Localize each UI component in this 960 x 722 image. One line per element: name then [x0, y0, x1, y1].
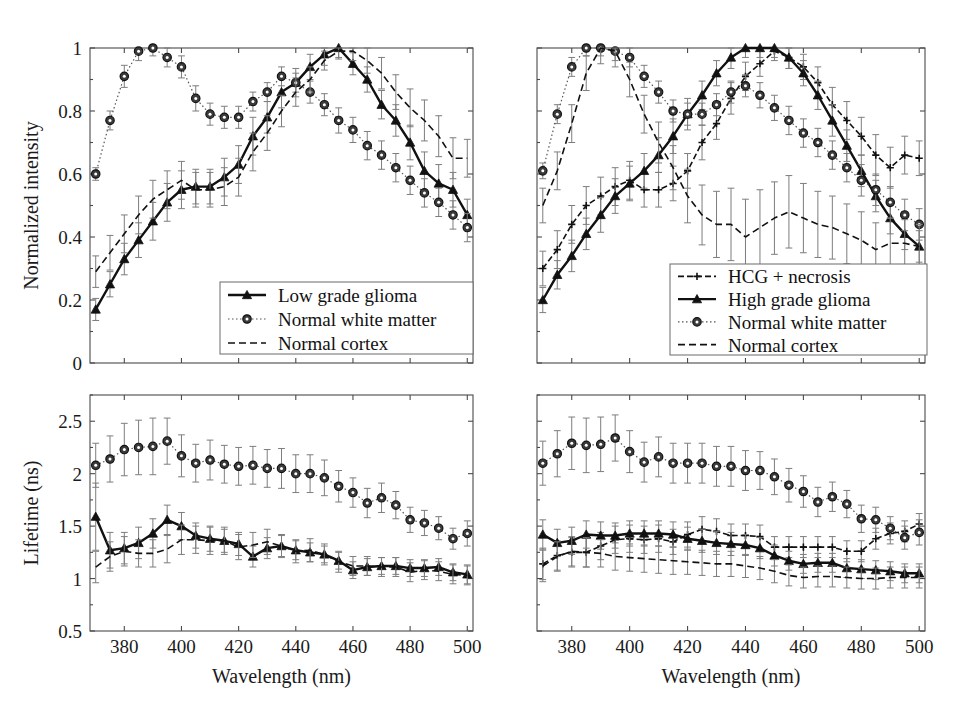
data-point-marker-hole	[614, 437, 617, 440]
data-point-marker-hole	[889, 527, 892, 530]
data-point-marker-hole	[787, 484, 790, 487]
data-point-marker-hole	[696, 320, 699, 323]
data-point-marker-hole	[845, 166, 848, 169]
data-point-marker	[814, 543, 821, 550]
data-point-marker-hole	[903, 213, 906, 216]
data-point-marker-hole	[643, 461, 646, 464]
data-point-marker-hole	[541, 169, 544, 172]
data-point-marker-hole	[816, 500, 819, 503]
data-point-marker-hole	[323, 103, 326, 106]
data-point-marker-hole	[94, 464, 97, 467]
data-point-marker-hole	[730, 91, 733, 94]
data-point-marker-hole	[194, 462, 197, 465]
data-point-marker-hole	[394, 166, 397, 169]
data-point-marker-hole	[585, 444, 588, 447]
data-point-marker-hole	[380, 496, 383, 499]
x-tick-label: 380	[557, 636, 586, 657]
data-point-marker-hole	[109, 119, 112, 122]
data-point-marker	[163, 515, 172, 523]
series-normal_white_matter	[92, 418, 472, 549]
data-point-marker-hole	[730, 465, 733, 468]
data-point-marker	[843, 548, 850, 555]
y-tick-label: 0.5	[58, 621, 82, 642]
data-point-marker-hole	[166, 56, 169, 59]
data-point-marker-hole	[672, 110, 675, 113]
legend-top-right[interactable]: HCG + necrosisHigh grade gliomaNormal wh…	[670, 264, 927, 356]
data-point-marker-hole	[628, 450, 631, 453]
x-tick-label: 480	[396, 636, 425, 657]
data-point-marker-hole	[366, 502, 369, 505]
error-bar	[364, 48, 371, 73]
figure-root: 00.20.40.60.81Normalized intensity380400…	[0, 0, 960, 722]
data-point-marker	[420, 166, 429, 174]
data-point-marker-hole	[437, 201, 440, 204]
data-point-marker-hole	[903, 536, 906, 539]
data-point-marker-hole	[628, 56, 631, 59]
data-point-marker-hole	[466, 226, 469, 229]
data-point-marker-hole	[657, 455, 660, 458]
data-point-marker-hole	[137, 50, 140, 53]
data-point-marker-hole	[599, 443, 602, 446]
data-point-marker	[91, 512, 100, 520]
error-bar	[350, 48, 357, 61]
data-point-marker-hole	[380, 154, 383, 157]
legend-top-left[interactable]: Low grade gliomaNormal white matterNorma…	[220, 282, 473, 354]
data-point-marker-hole	[151, 445, 154, 448]
data-point-marker-hole	[109, 457, 112, 460]
data-point-marker-hole	[409, 179, 412, 182]
y-tick-label: 0.2	[58, 290, 82, 311]
series-normal_cortex	[92, 525, 470, 585]
data-point-marker-hole	[860, 517, 863, 520]
legend-label: Normal cortex	[278, 333, 389, 354]
data-point-marker-hole	[845, 503, 848, 506]
error-bar	[407, 89, 414, 127]
data-point-marker-hole	[802, 490, 805, 493]
data-point-marker-hole	[223, 463, 226, 466]
data-point-marker-hole	[280, 75, 283, 78]
panel-bottom-left: 3804004204404604805000.511.522.5Waveleng…	[20, 395, 482, 688]
error-bar	[164, 536, 171, 563]
series-low_grade_glioma	[91, 483, 472, 584]
data-point-marker-hole	[180, 454, 183, 457]
data-point-marker-hole	[309, 472, 312, 475]
panel-bottom-right: 380400420440460480500Wavelength (nm)	[537, 395, 933, 688]
data-point-marker-hole	[337, 485, 340, 488]
data-point-marker	[916, 155, 923, 162]
error-bar	[583, 56, 590, 91]
data-point-marker-hole	[209, 113, 212, 116]
data-point-marker-hole	[758, 469, 761, 472]
data-point-marker	[785, 543, 792, 550]
data-point-marker-hole	[394, 504, 397, 507]
error-bar	[641, 95, 648, 133]
y-tick-label: 0.4	[58, 227, 82, 248]
y-tick-label: 1.5	[58, 516, 82, 537]
data-point-marker-hole	[180, 65, 183, 68]
data-point-marker-hole	[686, 462, 689, 465]
legend-label: Normal cortex	[728, 335, 839, 356]
y-axis-label: Lifetime (ns)	[20, 461, 43, 566]
data-point-marker-hole	[266, 467, 269, 470]
legend-label: HCG + necrosis	[728, 266, 851, 287]
data-point-marker-hole	[251, 464, 254, 467]
legend-label: Low grade glioma	[278, 285, 418, 306]
legend-label: Normal white matter	[278, 309, 437, 330]
data-point-marker-hole	[744, 469, 747, 472]
y-tick-label: 0.8	[58, 101, 82, 122]
data-point-marker-hole	[366, 144, 369, 147]
error-bar	[757, 190, 764, 266]
data-point-marker-hole	[237, 116, 240, 119]
data-point-marker-hole	[223, 116, 226, 119]
y-tick-label: 0	[73, 353, 83, 374]
data-point-marker-hole	[701, 462, 704, 465]
data-point-marker-hole	[451, 213, 454, 216]
data-point-marker-hole	[672, 462, 675, 465]
data-point-marker-hole	[351, 128, 354, 131]
data-point-marker-hole	[556, 452, 559, 455]
x-axis-label: Wavelength (nm)	[662, 665, 801, 688]
data-point-marker-hole	[758, 94, 761, 97]
data-point-marker-hole	[773, 106, 776, 109]
data-point-marker-hole	[151, 47, 154, 50]
x-tick-label: 460	[789, 636, 818, 657]
data-point-marker-hole	[744, 84, 747, 87]
data-point-marker-hole	[166, 440, 169, 443]
